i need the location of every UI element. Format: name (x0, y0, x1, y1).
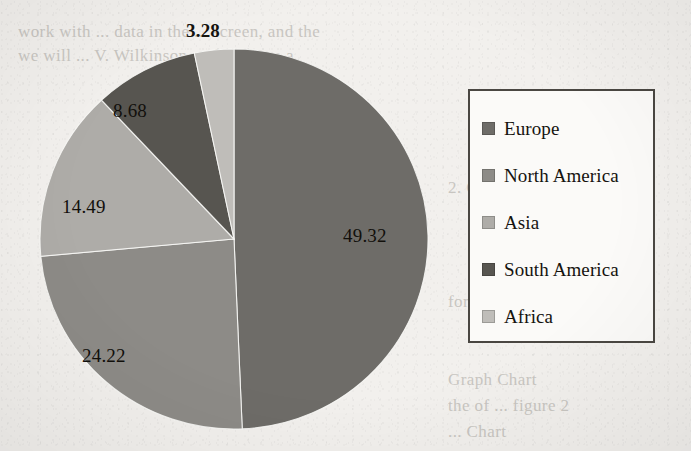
pie-slice (41, 239, 242, 429)
bleed-through-line: the of ... figure 2 (448, 396, 569, 416)
legend-swatch-icon (482, 310, 495, 323)
scanned-page: work with ... data in the ... screen, an… (0, 0, 691, 451)
legend-swatch-icon (482, 169, 495, 182)
bleed-through-line: work with ... data in the ... screen, an… (18, 22, 320, 42)
pie-slice-value-label: 14.49 (62, 196, 106, 218)
legend-item-label: South America (504, 259, 619, 281)
legend-swatch-icon (482, 263, 495, 276)
legend-item-label: Asia (504, 212, 539, 234)
pie-slice (234, 49, 428, 429)
legend-item-africa[interactable]: Africa (482, 293, 653, 340)
legend-item-asia[interactable]: Asia (482, 199, 653, 246)
pie-slice-value-label: 3.28 (186, 20, 220, 42)
legend-item-label: Europe (504, 118, 559, 140)
bleed-through-line: Graph Chart (448, 370, 537, 390)
legend-swatch-icon (482, 122, 495, 135)
pie-slice-value-label: 8.68 (113, 100, 147, 122)
pie-slice-value-label: 24.22 (82, 345, 126, 367)
chart-legend: EuropeNorth AmericaAsiaSouth AmericaAfri… (468, 89, 655, 343)
pie-slice-value-label: 49.32 (343, 225, 387, 247)
legend-item-europe[interactable]: Europe (482, 105, 653, 152)
legend-item-north-america[interactable]: North America (482, 152, 653, 199)
legend-item-label: Africa (504, 306, 553, 328)
legend-swatch-icon (482, 216, 495, 229)
legend-item-label: North America (504, 165, 619, 187)
bleed-through-line: ... Chart (448, 422, 506, 442)
legend-item-south-america[interactable]: South America (482, 246, 653, 293)
